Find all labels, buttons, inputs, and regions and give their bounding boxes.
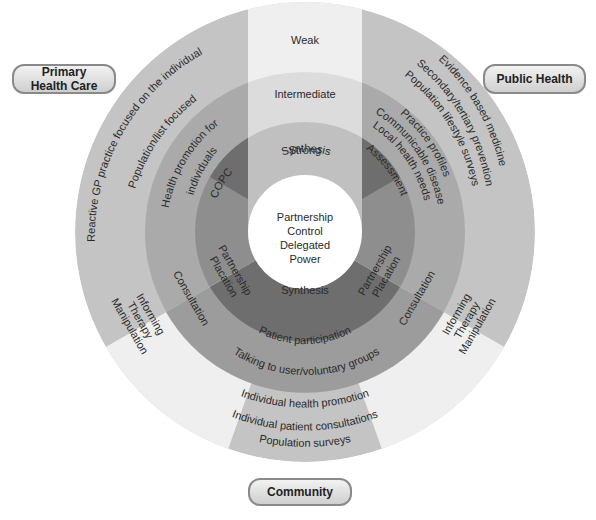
synthesis-bottom: Synthesis [281, 284, 329, 296]
community-label: Community [248, 478, 352, 506]
public-health-label: Public Health [483, 64, 586, 94]
center-line-4: Power [289, 253, 321, 265]
primary-health-care-label: Primary Health Care [12, 64, 116, 94]
weak-label: Weak [291, 34, 319, 46]
center-line-2: Control [287, 225, 322, 237]
center-line-1: Partnership [277, 211, 333, 223]
center-line-3: Delegated [280, 239, 330, 251]
intermediate-label: Intermediate [274, 88, 335, 100]
